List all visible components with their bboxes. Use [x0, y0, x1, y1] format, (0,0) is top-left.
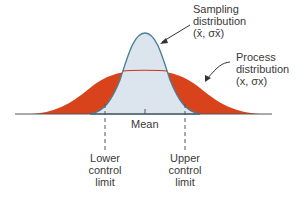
upper-label-line2: control: [165, 164, 205, 176]
control-chart-diagram: [0, 0, 306, 198]
sampling-label-line1: Sampling: [193, 3, 246, 15]
process-label-line3: (x, σx): [236, 75, 289, 87]
upper-label-line1: Upper: [165, 152, 205, 164]
upper-control-limit-label: Upper control limit: [165, 152, 205, 188]
process-label-line1: Process: [236, 51, 289, 63]
lower-control-limit-label: Lower control limit: [85, 152, 125, 188]
upper-label-line3: limit: [165, 176, 205, 188]
lower-label-line3: limit: [85, 176, 125, 188]
process-arrow: [207, 62, 230, 79]
sampling-label-line3: (x̄, σx̄): [193, 27, 246, 39]
sampling-distribution-label: Sampling distribution (x̄, σx̄): [193, 3, 246, 39]
lower-label-line1: Lower: [85, 152, 125, 164]
process-distribution-label: Process distribution (x, σx): [236, 51, 289, 87]
process-label-line2: distribution: [236, 63, 289, 75]
sampling-label-line2: distribution: [193, 15, 246, 27]
mean-label: Mean: [131, 118, 159, 130]
lower-label-line2: control: [85, 164, 125, 176]
